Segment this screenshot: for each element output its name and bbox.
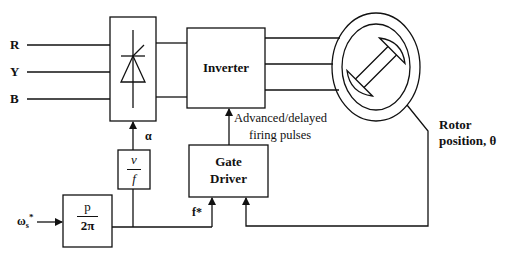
p-2pi-fraction: p 2π (63, 199, 112, 234)
motor-rotor-bore (342, 24, 410, 110)
alpha-label: α (145, 130, 152, 142)
vf-fraction: v f (118, 152, 150, 187)
f-star-label: f* (192, 206, 202, 218)
vf-denominator: f (118, 170, 150, 187)
gate-driver-label-1: Gate (189, 155, 268, 168)
salient-rotor-icon (342, 33, 410, 101)
firing-note-line1: Advanced/delayed (234, 112, 327, 125)
speed-ref-label: ωs* (17, 213, 33, 230)
p-numerator: p (77, 199, 98, 217)
2pi-denominator: 2π (63, 217, 112, 234)
motor-stator (332, 13, 420, 121)
omega-superscript: * (29, 212, 34, 222)
rotor-label-2: position, θ (439, 134, 496, 147)
phase-b-label: B (10, 92, 19, 105)
firing-note-line2: firing pulses (249, 129, 311, 142)
gate-driver-label-2: Driver (189, 172, 268, 185)
omega-subscript: s (26, 221, 29, 230)
vf-numerator: v (127, 152, 141, 170)
rotor-label-1: Rotor (439, 118, 472, 131)
phase-y-label: Y (10, 65, 19, 78)
inverter-label: Inverter (187, 61, 265, 74)
omega-symbol: ω (17, 214, 26, 228)
phase-r-label: R (10, 38, 19, 51)
thyristor-icon (121, 30, 145, 108)
